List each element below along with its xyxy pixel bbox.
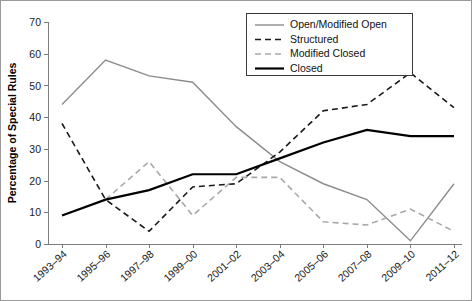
y-axis: 010203040506070 xyxy=(29,16,48,250)
x-tick-label: 2001–02 xyxy=(205,247,244,283)
series-line-open-modified-open xyxy=(62,60,454,241)
y-tick-label: 70 xyxy=(29,16,41,28)
x-tick-label: 1995–96 xyxy=(74,247,113,283)
x-tick-label: 2009–10 xyxy=(379,247,418,283)
chart-legend: Open/Modified OpenStructuredModified Clo… xyxy=(247,14,413,76)
legend-label: Open/Modified Open xyxy=(290,18,387,30)
legend-label: Closed xyxy=(290,62,323,74)
x-tick-label: 2005–06 xyxy=(292,247,331,283)
y-axis-title: Percentage of Special Rules xyxy=(6,63,18,204)
y-tick-label: 10 xyxy=(29,206,41,218)
y-tick-label: 40 xyxy=(29,111,41,123)
legend-label: Structured xyxy=(290,33,339,45)
y-tick-label: 50 xyxy=(29,80,41,92)
legend-label: Modified Closed xyxy=(290,47,365,59)
series-layer xyxy=(62,60,454,241)
y-tick-label: 60 xyxy=(29,48,41,60)
x-tick-label: 1997–98 xyxy=(118,247,157,283)
series-line-closed xyxy=(62,130,454,216)
x-tick-label: 1993–94 xyxy=(30,247,69,283)
line-chart: 010203040506070 1993–941995–961997–98199… xyxy=(0,0,472,301)
series-line-structured xyxy=(62,73,454,232)
x-tick-label: 2007–08 xyxy=(335,247,374,283)
x-axis: 1993–941995–961997–981999–002001–022003–… xyxy=(30,244,462,284)
x-tick-label: 2011–12 xyxy=(423,247,461,283)
y-tick-label: 0 xyxy=(35,238,41,250)
series-line-modified-closed xyxy=(106,162,454,232)
y-tick-label: 30 xyxy=(29,143,41,155)
y-tick-label: 20 xyxy=(29,175,41,187)
x-tick-label: 1999–00 xyxy=(161,247,200,283)
chart-container: 010203040506070 1993–941995–961997–98199… xyxy=(0,0,472,301)
x-tick-label: 2003–04 xyxy=(248,247,287,283)
